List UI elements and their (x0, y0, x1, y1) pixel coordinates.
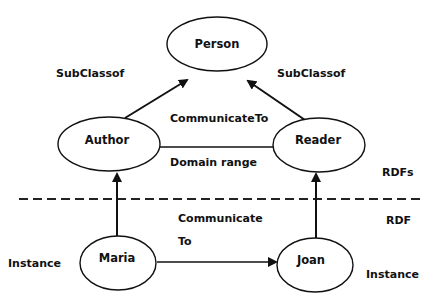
communicate-instance-label-line2: To (178, 235, 192, 248)
instance-left-label: Instance (8, 257, 61, 270)
node-person: Person (167, 17, 267, 71)
rdf-layer-label: RDF (386, 214, 411, 227)
node-maria-label: Maria (99, 251, 136, 265)
node-maria: Maria (80, 236, 156, 290)
instance-right-label: Instance (366, 268, 419, 281)
node-author: Author (58, 117, 160, 171)
subclass-right-label: SubClassof (277, 67, 346, 80)
communicate-instance-label-line1: Communicate (178, 212, 263, 225)
node-reader-label: Reader (295, 133, 341, 147)
node-joan-label: Joan (296, 253, 325, 267)
node-person-label: Person (195, 37, 240, 51)
rdf-diagram: Person Author Reader Maria Joan SubClass… (0, 0, 428, 301)
node-joan: Joan (277, 238, 353, 292)
subclass-left-label: SubClassof (56, 67, 125, 80)
rdfs-layer-label: RDFs (382, 166, 414, 179)
node-author-label: Author (85, 133, 130, 147)
domain-range-label: Domain range (170, 156, 257, 169)
communicate-to-schema-label: CommunicateTo (170, 112, 269, 125)
node-reader: Reader (273, 118, 365, 172)
